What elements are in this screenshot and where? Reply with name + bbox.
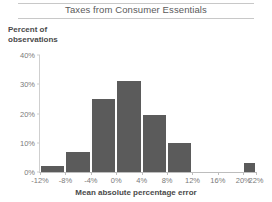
chart-title: Taxes from Consumer Essentials	[0, 4, 272, 15]
x-axis-tick-mark	[65, 172, 66, 175]
y-axis-label-line1: Percent of	[8, 25, 88, 35]
x-axis-line	[39, 172, 256, 173]
bar	[65, 152, 90, 172]
bar	[91, 99, 116, 172]
y-axis-tick-label: 30%	[20, 80, 35, 89]
x-axis-tick-mark	[116, 172, 117, 175]
bar	[243, 163, 256, 172]
x-axis-tick-label: -4%	[84, 176, 97, 185]
x-axis-tick-mark	[218, 172, 219, 175]
x-axis-tick-label: -8%	[59, 176, 72, 185]
y-axis-label-line2: observations	[8, 35, 88, 45]
x-axis-tick-label: 22%	[248, 176, 263, 185]
x-axis-label: Mean absolute percentage error	[0, 188, 272, 197]
x-axis-tick-mark	[40, 172, 41, 175]
x-axis-tick-label: 8%	[162, 176, 173, 185]
bar	[40, 166, 65, 172]
y-axis-tick-mark	[37, 84, 40, 85]
x-axis-tick-mark	[243, 172, 244, 175]
title-rule-bottom	[18, 18, 254, 19]
x-axis-tick-mark	[256, 172, 257, 175]
x-axis-tick-mark	[91, 172, 92, 175]
x-axis-tick-label: 0%	[111, 176, 122, 185]
x-axis-tick-label: 16%	[210, 176, 225, 185]
y-axis-tick-label: 10%	[20, 138, 35, 147]
y-axis-tick-label: 40%	[20, 51, 35, 60]
y-axis-tick-label: 20%	[20, 109, 35, 118]
x-axis-tick-mark	[192, 172, 193, 175]
x-axis-tick-label: 12%	[185, 176, 200, 185]
x-axis-tick-mark	[167, 172, 168, 175]
chart-figure: Taxes from Consumer Essentials Percent o…	[0, 0, 272, 202]
y-axis-tick-mark	[37, 55, 40, 56]
bar	[167, 143, 192, 172]
x-axis-tick-label: -12%	[31, 176, 49, 185]
y-axis-label: Percent of observations	[8, 25, 88, 45]
y-axis-tick-mark	[37, 113, 40, 114]
bar	[116, 81, 141, 172]
x-axis-tick-label: 4%	[136, 176, 147, 185]
bar	[142, 115, 167, 172]
plot-area: 0%10%20%30%40%-12%-8%-4%0%4%8%12%16%20%2…	[40, 55, 256, 172]
x-axis-tick-mark	[142, 172, 143, 175]
y-axis-tick-mark	[37, 142, 40, 143]
